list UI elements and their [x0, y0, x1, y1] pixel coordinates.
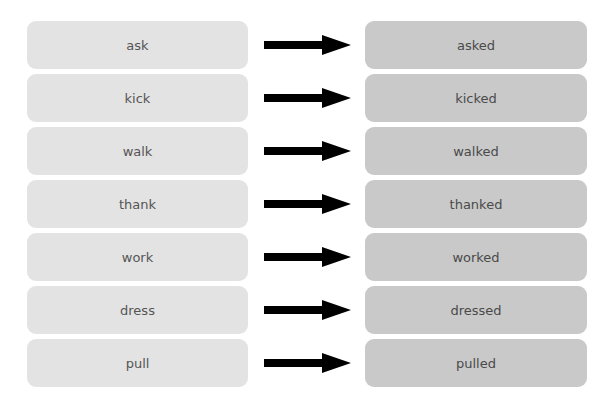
- right-arrow-icon: [264, 247, 351, 267]
- past-verb-label: worked: [452, 250, 499, 265]
- past-verb-label: pulled: [456, 356, 496, 371]
- base-verb-label: work: [122, 250, 153, 265]
- verb-pair-row: work worked: [0, 233, 611, 281]
- past-verb-label: walked: [453, 144, 499, 159]
- base-verb-box: ask: [27, 21, 248, 69]
- right-arrow-icon: [264, 353, 351, 373]
- right-arrow-icon: [264, 141, 351, 161]
- verb-pair-row: thank thanked: [0, 180, 611, 228]
- past-verb-box: dressed: [365, 286, 587, 334]
- past-verb-box: walked: [365, 127, 587, 175]
- base-verb-label: thank: [119, 197, 156, 212]
- base-verb-label: walk: [123, 144, 153, 159]
- past-verb-label: thanked: [450, 197, 503, 212]
- base-verb-box: work: [27, 233, 248, 281]
- past-verb-box: worked: [365, 233, 587, 281]
- right-arrow-icon: [264, 35, 351, 55]
- base-verb-box: kick: [27, 74, 248, 122]
- base-verb-label: pull: [126, 356, 150, 371]
- base-verb-label: kick: [125, 91, 151, 106]
- base-verb-box: thank: [27, 180, 248, 228]
- past-verb-label: dressed: [450, 303, 501, 318]
- past-verb-box: pulled: [365, 339, 587, 387]
- base-verb-label: ask: [126, 38, 148, 53]
- past-verb-box: kicked: [365, 74, 587, 122]
- right-arrow-icon: [264, 194, 351, 214]
- past-verb-label: asked: [457, 38, 495, 53]
- past-verb-label: kicked: [455, 91, 497, 106]
- past-verb-box: asked: [365, 21, 587, 69]
- verb-pair-row: dress dressed: [0, 286, 611, 334]
- right-arrow-icon: [264, 88, 351, 108]
- past-verb-box: thanked: [365, 180, 587, 228]
- base-verb-label: dress: [120, 303, 155, 318]
- base-verb-box: dress: [27, 286, 248, 334]
- verb-pair-row: ask asked: [0, 21, 611, 69]
- right-arrow-icon: [264, 300, 351, 320]
- verb-pair-row: walk walked: [0, 127, 611, 175]
- base-verb-box: walk: [27, 127, 248, 175]
- verb-pair-row: kick kicked: [0, 74, 611, 122]
- base-verb-box: pull: [27, 339, 248, 387]
- verb-pair-row: pull pulled: [0, 339, 611, 387]
